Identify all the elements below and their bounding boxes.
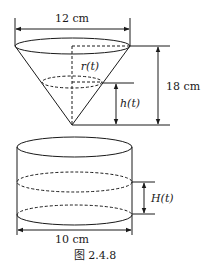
cylinder: H(t) 10 cm (17, 137, 174, 246)
figure-caption: 图 2.4.8 (74, 249, 117, 262)
cone-diameter-label: 12 cm (55, 12, 90, 25)
diagram: 12 cm r(t) h(t) 18 cm (0, 0, 202, 272)
cylinder-top-ellipse (17, 137, 132, 157)
cylinder-bottom-back (17, 205, 132, 215)
cone: 12 cm r(t) h(t) 18 cm (15, 12, 201, 125)
cylinder-water-surface (17, 172, 132, 192)
cone-right-side (72, 46, 130, 125)
cone-height-label: 18 cm (166, 80, 201, 93)
cylinder-water-height-label: H(t) (150, 192, 174, 205)
cone-water-height-label: h(t) (120, 97, 140, 110)
cylinder-bottom-front (17, 215, 132, 225)
cone-radius-label: r(t) (81, 60, 99, 73)
cone-left-side (15, 46, 72, 125)
cylinder-diameter-label: 10 cm (55, 233, 90, 246)
